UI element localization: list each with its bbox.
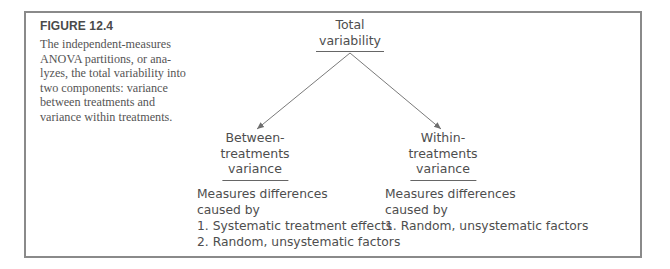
node-line: treatments	[408, 146, 477, 162]
description-line: caused by	[197, 202, 400, 218]
node-line: variance	[410, 161, 476, 181]
node-between-treatments-variance: Between- treatments variance	[220, 130, 289, 181]
arrow-to-within	[350, 53, 441, 129]
description-item: 1. Random, unsystematic factors	[385, 218, 588, 234]
description-item: 1. Systematic treatment effects	[197, 218, 400, 234]
within-description: Measures differences caused by 1. Random…	[385, 186, 588, 234]
description-line: caused by	[385, 202, 588, 218]
arrow-to-between	[257, 53, 350, 129]
node-line: Within-	[408, 130, 477, 146]
node-line: Total	[316, 17, 384, 33]
node-line: Between-	[220, 130, 289, 146]
description-item: 2. Random, unsystematic factors	[197, 234, 400, 250]
node-line: treatments	[220, 146, 289, 162]
node-line: variance	[222, 161, 288, 181]
between-description: Measures differences caused by 1. System…	[197, 186, 400, 250]
description-line: Measures differences	[197, 186, 400, 202]
node-line: variability	[316, 33, 384, 53]
node-within-treatments-variance: Within- treatments variance	[408, 130, 477, 181]
description-line: Measures differences	[385, 186, 588, 202]
node-total-variability: Total variability	[316, 17, 384, 52]
